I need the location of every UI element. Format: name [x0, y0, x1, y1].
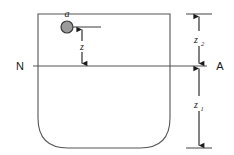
dimension-z2-subscript: 2	[201, 40, 205, 47]
dimension-z1-group: z 1	[186, 69, 212, 149]
dimension-z-label: z	[79, 41, 84, 52]
particle-a-label: a	[65, 8, 70, 19]
dimension-z1-label: z	[193, 99, 198, 110]
dimension-z2-group: z 2	[186, 14, 212, 64]
particle-group: a	[61, 8, 101, 33]
dimension-z-group: z	[79, 30, 84, 64]
centerline-group: N A	[16, 60, 224, 72]
particle-a-circle	[61, 21, 73, 33]
centerline-label-n: N	[16, 60, 24, 72]
vessel-depth-diagram: N A a z z 2 z 1	[0, 0, 234, 155]
vessel-outline-group	[38, 14, 170, 148]
dimension-z1-subscript: 1	[200, 105, 203, 112]
dimension-z2-label: z	[193, 34, 198, 45]
diagram-canvas: N A a z z 2 z 1	[0, 0, 234, 155]
vessel-outline	[38, 14, 170, 148]
centerline-label-a: A	[216, 60, 224, 72]
